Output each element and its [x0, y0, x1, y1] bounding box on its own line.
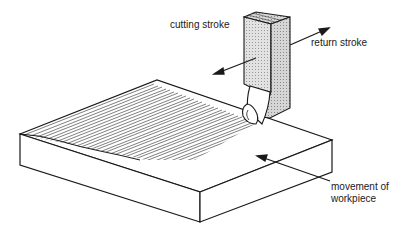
shaping-diagram: cutting stroke return stroke movement of…: [0, 0, 402, 235]
return-stroke-arrowhead: [319, 28, 329, 35]
return-stroke-label: return stroke: [311, 37, 367, 49]
tool-front-face: [244, 17, 271, 92]
cutting-stroke-label: cutting stroke: [170, 19, 229, 31]
cutting-stroke-arrowhead: [214, 68, 224, 74]
movement-label-line2: workpiece: [331, 193, 376, 205]
movement-label-line1: movement of: [331, 181, 389, 193]
